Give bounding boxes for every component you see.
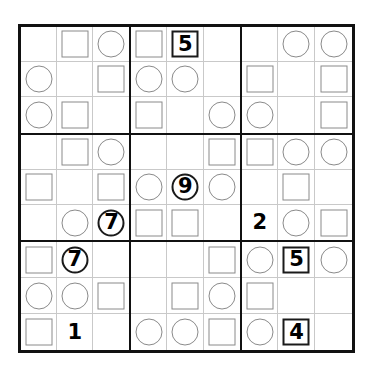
- cell-r2c4[interactable]: [131, 62, 167, 97]
- cell-r7c5[interactable]: [167, 242, 203, 278]
- circle-marker-icon: [208, 173, 235, 200]
- cell-r9c9[interactable]: [315, 314, 352, 350]
- cell-r5c8[interactable]: [278, 170, 315, 205]
- cell-r5c9[interactable]: [315, 170, 352, 205]
- cell-r6c9[interactable]: [315, 205, 352, 240]
- cell-r3c7[interactable]: [242, 97, 279, 132]
- cell-digit: 5: [289, 249, 303, 270]
- cell-r1c3[interactable]: [93, 27, 129, 62]
- cell-r7c7[interactable]: [242, 242, 279, 278]
- cell-r2c1[interactable]: [21, 62, 57, 97]
- cell-r7c2[interactable]: 7: [57, 242, 93, 278]
- cell-r6c4[interactable]: [131, 205, 167, 240]
- circle-marker-icon: [283, 138, 310, 165]
- cell-r3c5[interactable]: [167, 97, 203, 132]
- cell-r6c1[interactable]: [21, 205, 57, 240]
- empty-marker-icon: [61, 66, 88, 93]
- square-marker-icon: [320, 102, 347, 129]
- cell-r5c3[interactable]: [93, 170, 129, 205]
- cell-digit: 9: [178, 176, 192, 197]
- cell-r6c7[interactable]: 2: [242, 205, 279, 240]
- cell-r3c6[interactable]: [204, 97, 240, 132]
- cell-r5c6[interactable]: [204, 170, 240, 205]
- cell-r6c8[interactable]: [278, 205, 315, 240]
- cell-r4c5[interactable]: [167, 135, 203, 170]
- cell-r2c7[interactable]: [242, 62, 279, 97]
- cell-r3c1[interactable]: [21, 97, 57, 132]
- cell-r7c8[interactable]: 5: [278, 242, 315, 278]
- cell-r9c4[interactable]: [131, 314, 167, 350]
- cell-r5c2[interactable]: [57, 170, 93, 205]
- cell-r2c6[interactable]: [204, 62, 240, 97]
- empty-marker-icon: [283, 102, 310, 129]
- empty-marker-icon: [135, 282, 162, 309]
- circle-marker-icon: [98, 31, 125, 58]
- cell-r1c7[interactable]: [242, 27, 279, 62]
- cell-digit: 4: [289, 322, 303, 343]
- cell-r1c6[interactable]: [204, 27, 240, 62]
- cell-r7c4[interactable]: [131, 242, 167, 278]
- cell-r7c9[interactable]: [315, 242, 352, 278]
- cell-r3c3[interactable]: [93, 97, 129, 132]
- cell-r7c6[interactable]: [204, 242, 240, 278]
- cell-r1c4[interactable]: [131, 27, 167, 62]
- cell-r8c5[interactable]: [167, 278, 203, 314]
- cell-r6c2[interactable]: [57, 205, 93, 240]
- cell-r5c4[interactable]: [131, 170, 167, 205]
- cell-r9c1[interactable]: [21, 314, 57, 350]
- cell-r8c3[interactable]: [93, 278, 129, 314]
- cell-r8c2[interactable]: [57, 278, 93, 314]
- cell-r1c1[interactable]: [21, 27, 57, 62]
- cell-r8c7[interactable]: [242, 278, 279, 314]
- cell-r6c3[interactable]: 7: [93, 205, 129, 240]
- cell-r4c3[interactable]: [93, 135, 129, 170]
- cell-r8c6[interactable]: [204, 278, 240, 314]
- cell-r1c9[interactable]: [315, 27, 352, 62]
- empty-marker-icon: [320, 282, 347, 309]
- cell-r4c9[interactable]: [315, 135, 352, 170]
- cell-r2c8[interactable]: [278, 62, 315, 97]
- cell-r8c4[interactable]: [131, 278, 167, 314]
- cell-r1c2[interactable]: [57, 27, 93, 62]
- cell-r8c8[interactable]: [278, 278, 315, 314]
- sudoku-grid[interactable]: 57927154: [18, 24, 355, 353]
- cell-r7c3[interactable]: [93, 242, 129, 278]
- cell-r2c3[interactable]: [93, 62, 129, 97]
- cell-r8c1[interactable]: [21, 278, 57, 314]
- cell-r4c8[interactable]: [278, 135, 315, 170]
- cell-r9c5[interactable]: [167, 314, 203, 350]
- cell-r4c2[interactable]: [57, 135, 93, 170]
- cell-r3c9[interactable]: [315, 97, 352, 132]
- cell-r6c5[interactable]: [167, 205, 203, 240]
- cell-r8c9[interactable]: [315, 278, 352, 314]
- cell-r4c1[interactable]: [21, 135, 57, 170]
- cell-r4c7[interactable]: [242, 135, 279, 170]
- cell-r5c1[interactable]: [21, 170, 57, 205]
- cell-r7c1[interactable]: [21, 242, 57, 278]
- cell-r9c8[interactable]: 4: [278, 314, 315, 350]
- cell-r9c2[interactable]: 1: [57, 314, 93, 350]
- cell-r9c3[interactable]: [93, 314, 129, 350]
- empty-marker-icon: [98, 246, 125, 273]
- cell-digit: 2: [252, 212, 266, 233]
- cell-r4c4[interactable]: [131, 135, 167, 170]
- circle-marker-icon: [61, 282, 88, 309]
- cell-r5c5[interactable]: 9: [167, 170, 203, 205]
- sudoku-box-r2c3: 2: [242, 135, 352, 243]
- cell-r4c6[interactable]: [204, 135, 240, 170]
- cell-r9c7[interactable]: [242, 314, 279, 350]
- cell-r3c4[interactable]: [131, 97, 167, 132]
- cell-r9c6[interactable]: [204, 314, 240, 350]
- cell-r3c8[interactable]: [278, 97, 315, 132]
- cell-r6c6[interactable]: [204, 205, 240, 240]
- cell-r5c7[interactable]: [242, 170, 279, 205]
- circle-marker-icon: [135, 66, 162, 93]
- cell-r1c8[interactable]: [278, 27, 315, 62]
- cell-r2c2[interactable]: [57, 62, 93, 97]
- cell-r2c5[interactable]: [167, 62, 203, 97]
- cell-r1c5[interactable]: 5: [167, 27, 203, 62]
- cell-r3c2[interactable]: [57, 97, 93, 132]
- cell-r2c9[interactable]: [315, 62, 352, 97]
- cell-digit: 7: [68, 249, 82, 270]
- sudoku-box-r2c2: 9: [131, 135, 241, 243]
